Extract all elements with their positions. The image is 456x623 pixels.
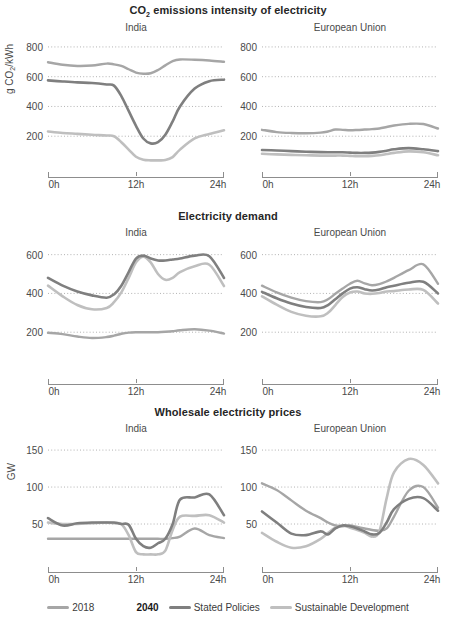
panel-title-prices-india: India bbox=[48, 423, 224, 434]
legend-swatch-2018 bbox=[47, 606, 69, 609]
y-tick-label: 600 bbox=[26, 71, 43, 82]
y-tick-label: 50 bbox=[246, 519, 257, 530]
x-tick-mark bbox=[350, 379, 351, 383]
x-tick-label: 24h bbox=[210, 574, 227, 585]
y-tick-label: 400 bbox=[240, 288, 257, 299]
y-tick-label: 200 bbox=[240, 131, 257, 142]
x-axis-co2-india: 0h12h24h bbox=[48, 172, 224, 190]
plot-prices-india: 15010050 bbox=[48, 439, 224, 561]
section-wholesale-prices: Wholesale electricity prices Dollars per… bbox=[0, 401, 456, 591]
legend-label-sustainable-development: Sustainable Development bbox=[295, 602, 409, 613]
y-tick-label: 50 bbox=[32, 519, 43, 530]
y-tick-label: 400 bbox=[240, 101, 257, 112]
panel-title-co2-eu: European Union bbox=[262, 22, 438, 33]
y-tick-label: 200 bbox=[240, 327, 257, 338]
y-axis-title-co2: g CO2/kWh bbox=[4, 44, 16, 94]
x-axis-prices-india: 0h12h24h bbox=[48, 567, 224, 585]
x-tick-label: 0h bbox=[262, 179, 273, 190]
x-tick-label: 12h bbox=[342, 386, 359, 397]
legend-item-stated-policies: Stated Policies bbox=[169, 602, 260, 613]
x-axis-demand-eu: 0h12h24h bbox=[262, 379, 438, 397]
x-tick-mark bbox=[136, 379, 137, 383]
x-tick-label: 0h bbox=[48, 179, 59, 190]
y-tick-label: 600 bbox=[240, 71, 257, 82]
x-tick-label: 0h bbox=[48, 386, 59, 397]
x-tick-mark bbox=[136, 567, 137, 571]
section-electricity-demand: Electricity demand GW India 600400200 0h… bbox=[0, 205, 456, 401]
legend-item-sustainable-development: Sustainable Development bbox=[270, 602, 409, 613]
panel-title-co2-india: India bbox=[48, 22, 224, 33]
panel-title-demand-india: India bbox=[48, 227, 224, 238]
y-tick-label: 150 bbox=[240, 445, 257, 456]
x-tick-label: 0h bbox=[262, 574, 273, 585]
legend-swatch-stated-policies bbox=[169, 606, 191, 609]
panel-co2-india: India 800600400200 0h12h24h bbox=[48, 22, 224, 150]
panel-co2-eu: European Union 800600400200 0h12h24h bbox=[262, 22, 438, 150]
section-co2-emissions: CO2 emissions intensity of electricity g… bbox=[0, 0, 456, 205]
x-tick-label: 12h bbox=[342, 574, 359, 585]
panel-title-demand-eu: European Union bbox=[262, 227, 438, 238]
x-tick-label: 24h bbox=[210, 179, 227, 190]
section-title-prices: Wholesale electricity prices bbox=[0, 406, 456, 418]
legend-label-2018: 2018 bbox=[72, 602, 94, 613]
x-tick-label: 12h bbox=[128, 574, 145, 585]
x-tick-mark bbox=[350, 567, 351, 571]
x-tick-label: 24h bbox=[210, 386, 227, 397]
legend-swatch-sustainable-development bbox=[270, 606, 292, 609]
y-tick-label: 200 bbox=[26, 131, 43, 142]
panel-demand-eu: European Union 600400200 0h12h24h bbox=[262, 227, 438, 355]
y-tick-label: 800 bbox=[240, 41, 257, 52]
x-tick-label: 12h bbox=[342, 179, 359, 190]
y-tick-label: 100 bbox=[240, 482, 257, 493]
x-tick-mark bbox=[136, 172, 137, 176]
x-tick-label: 24h bbox=[424, 179, 441, 190]
legend-group-2040: 2040 bbox=[136, 602, 158, 613]
x-tick-label: 0h bbox=[262, 386, 273, 397]
x-tick-label: 24h bbox=[424, 574, 441, 585]
chart-figure: CO2 emissions intensity of electricity g… bbox=[0, 0, 456, 623]
y-tick-label: 200 bbox=[26, 327, 43, 338]
x-tick-mark bbox=[350, 172, 351, 176]
y-tick-label: 600 bbox=[26, 249, 43, 260]
chart-legend: 2018 2040 Stated Policies Sustainable De… bbox=[0, 596, 456, 618]
x-tick-label: 12h bbox=[128, 179, 145, 190]
panel-demand-india: India 600400200 0h12h24h bbox=[48, 227, 224, 355]
plot-demand-india: 600400200 bbox=[48, 243, 224, 371]
x-axis-prices-eu: 0h12h24h bbox=[262, 567, 438, 585]
panel-prices-eu: European Union 15010050 0h12h24h bbox=[262, 423, 438, 545]
x-tick-label: 0h bbox=[48, 574, 59, 585]
y-tick-label: 800 bbox=[26, 41, 43, 52]
x-tick-label: 24h bbox=[424, 386, 441, 397]
section-title-co2-text: CO2 emissions intensity of electricity bbox=[129, 4, 326, 16]
y-tick-label: 150 bbox=[26, 445, 43, 456]
section-title-co2: CO2 emissions intensity of electricity bbox=[0, 4, 456, 18]
x-tick-label: 12h bbox=[128, 386, 145, 397]
y-tick-label: 400 bbox=[26, 101, 43, 112]
plot-prices-eu: 15010050 bbox=[262, 439, 438, 561]
legend-item-2018: 2018 bbox=[47, 602, 94, 613]
section-title-demand: Electricity demand bbox=[0, 210, 456, 222]
panel-prices-india: India 15010050 0h12h24h bbox=[48, 423, 224, 545]
x-axis-co2-eu: 0h12h24h bbox=[262, 172, 438, 190]
plot-co2-eu: 800600400200 bbox=[262, 38, 438, 166]
x-axis-demand-india: 0h12h24h bbox=[48, 379, 224, 397]
legend-label-stated-policies: Stated Policies bbox=[194, 602, 260, 613]
y-tick-label: 400 bbox=[26, 288, 43, 299]
plot-co2-india: 800600400200 bbox=[48, 38, 224, 166]
plot-demand-eu: 600400200 bbox=[262, 243, 438, 371]
y-tick-label: 600 bbox=[240, 249, 257, 260]
panel-title-prices-eu: European Union bbox=[262, 423, 438, 434]
y-tick-label: 100 bbox=[26, 482, 43, 493]
